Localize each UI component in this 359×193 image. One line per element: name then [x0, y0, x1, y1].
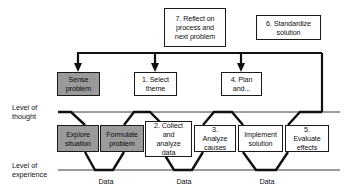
label-level-of-thought-line-1: Level of	[12, 103, 37, 112]
label-level-of-experience-line-1: Level of	[12, 161, 47, 170]
diagram-canvas: 7. Reflect on process and next problem 6…	[0, 0, 359, 193]
box-collect-and-analyze-data-text: 2. Collect and analyze data	[146, 121, 191, 157]
label-level-of-experience: Level of experience	[12, 161, 47, 179]
box-evaluate-effects-text: 5. Evaluate effects	[286, 125, 328, 152]
box-implement-solution-text: Implement solution	[240, 130, 281, 148]
arrow-to-sense-problem-head	[74, 63, 82, 72]
box-standardize-solution-text: 6. Standardize solution	[262, 19, 315, 37]
line-3: next problem	[173, 32, 217, 41]
box-reflect-on-process[interactable]: 7. Reflect on process and next problem	[164, 8, 226, 47]
label-level-of-experience-line-2: experience	[12, 170, 47, 179]
line-1: 6. Standardize	[264, 19, 313, 28]
line-1: 4. Plan	[229, 75, 255, 84]
box-analyze-causes[interactable]: 3. Analyze causes	[194, 125, 236, 152]
label-data-2: Data	[170, 177, 198, 186]
box-evaluate-effects[interactable]: 5. Evaluate effects	[285, 125, 329, 152]
line-2: causes	[197, 143, 233, 152]
box-formulate-problem[interactable]: Formulate problem	[100, 125, 144, 152]
box-analyze-causes-text: 3. Analyze causes	[195, 125, 235, 152]
line-1: 3. Analyze	[197, 125, 233, 143]
line-1: 1. Select	[140, 75, 171, 84]
box-implement-solution[interactable]: Implement solution	[238, 125, 283, 152]
box-collect-and-analyze-data[interactable]: 2. Collect and analyze data	[145, 121, 192, 157]
box-reflect-on-process-text: 7. Reflect on process and next problem	[171, 14, 219, 41]
box-standardize-solution[interactable]: 6. Standardize solution	[256, 15, 321, 40]
line-1: Explore	[63, 130, 93, 139]
line-2: process and	[173, 23, 217, 32]
label-level-of-thought: Level of thought	[12, 103, 37, 121]
line-1: Implement	[242, 130, 279, 139]
line-1: 5. Evaluate	[288, 125, 326, 143]
label-data-3: Data	[253, 177, 281, 186]
path-evaluate-to-feedback	[288, 112, 322, 125]
path-analyze-to-plan	[203, 112, 243, 125]
path-sense-to-explore	[58, 112, 85, 125]
path-explore-to-formulate	[85, 152, 124, 170]
box-select-theme[interactable]: 1. Select theme	[134, 72, 177, 96]
line-2: effects	[288, 143, 326, 152]
line-2: theme	[140, 84, 171, 93]
line-2: situation	[63, 139, 93, 148]
line-2: solution	[242, 139, 279, 148]
box-sense-problem-text: Sense problem	[62, 75, 95, 93]
line-1: Sense	[64, 75, 93, 84]
line-2: and...	[229, 84, 255, 93]
path-implement-to-evaluate	[243, 152, 288, 170]
line-3: data	[148, 148, 189, 157]
line-1: 2. Collect	[148, 121, 189, 130]
line-2: solution	[264, 28, 313, 37]
box-plan-and[interactable]: 4. Plan and...	[221, 72, 262, 96]
box-plan-and-text: 4. Plan and...	[227, 75, 257, 93]
line-2: problem	[64, 84, 93, 93]
line-2: and analyze	[148, 130, 189, 148]
label-level-of-thought-line-2: thought	[12, 112, 37, 121]
arrow-to-select-theme-head	[151, 63, 159, 72]
label-data-1: Data	[92, 177, 120, 186]
box-formulate-problem-text: Formulate problem	[102, 130, 141, 148]
line-2: problem	[104, 139, 139, 148]
box-select-theme-text: 1. Select theme	[138, 75, 173, 93]
line-1: 7. Reflect on	[173, 14, 217, 23]
box-explore-situation[interactable]: Explore situation	[57, 125, 99, 152]
arrow-to-plan-head	[237, 63, 245, 72]
box-explore-situation-text: Explore situation	[61, 130, 95, 148]
box-sense-problem[interactable]: Sense problem	[57, 72, 100, 96]
line-1: Formulate	[104, 130, 139, 139]
